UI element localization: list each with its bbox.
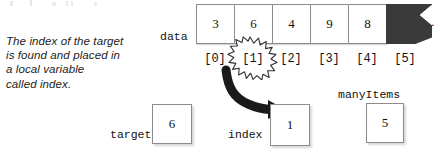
array-label-data: data: [160, 30, 188, 43]
array-index-label-5: [5]: [386, 52, 424, 66]
variable-box-manyitems: 5: [366, 103, 404, 143]
caption-line-2: is found and placed in: [6, 48, 176, 62]
variable-label-target: target: [110, 128, 151, 141]
array-index-label-1-overlay: [1]: [234, 52, 272, 66]
caption-line-1: The index of the target: [6, 34, 176, 48]
array-index-label-3: [3]: [310, 52, 348, 66]
array-index-label-4: [4]: [348, 52, 386, 66]
array-index-labels: [0] [1] [2] [3] [4] [5]: [196, 52, 436, 70]
array-cell-2: 4: [272, 4, 310, 44]
array-index-label-0: [0]: [196, 52, 234, 66]
variable-label-index: index: [228, 128, 263, 141]
caption-line-4: called index.: [6, 77, 176, 91]
array-ellipsis: ...: [420, 14, 437, 30]
array-cell-3: 9: [310, 4, 348, 44]
caption-line-3: a local variable: [6, 62, 176, 76]
diagram-canvas: The index of the target is found and pla…: [0, 0, 440, 157]
variable-box-index: 1: [270, 104, 310, 146]
array-row: 3 6 4 9 8: [196, 4, 432, 44]
array-cell-1: 6: [234, 4, 272, 44]
array-cell-0: 3: [196, 4, 234, 44]
caption-text: The index of the target is found and pla…: [6, 34, 176, 91]
variable-box-target: 6: [152, 104, 192, 144]
array-index-label-2: [2]: [272, 52, 310, 66]
scan-artifact: [8, 0, 118, 7]
variable-label-manyitems: manyItems: [338, 88, 400, 101]
array-cell-4: 8: [348, 4, 386, 44]
